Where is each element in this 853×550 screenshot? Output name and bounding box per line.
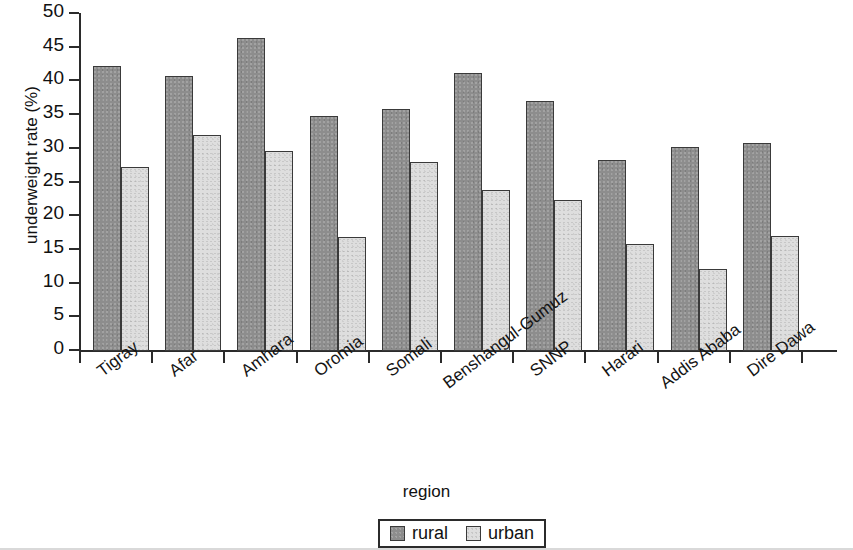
- y-axis-tick-label: 15: [43, 237, 64, 257]
- x-axis-title: region: [0, 482, 853, 502]
- x-axis-tick: [151, 352, 153, 363]
- y-axis-tick-label: 40: [43, 68, 64, 88]
- y-axis-tick-label: 25: [43, 170, 64, 190]
- x-axis-tick: [440, 352, 442, 363]
- legend-swatch-urban-icon: [466, 526, 481, 541]
- x-axis-tick: [368, 352, 370, 363]
- y-axis-tick: 30: [69, 147, 79, 149]
- legend-entry-rural: rural: [390, 523, 448, 543]
- bar-rural-somali: [382, 109, 410, 351]
- legend-entry-urban: urban: [466, 523, 534, 543]
- legend-label-rural: rural: [412, 523, 448, 543]
- x-axis-tick: [79, 352, 81, 363]
- y-axis-tick-label: 10: [43, 271, 64, 291]
- bar-urban-snnp: [554, 200, 582, 351]
- y-axis-tick: 50: [69, 12, 79, 14]
- bar-rural-addis-ababa: [671, 147, 699, 351]
- y-axis-tick: 35: [69, 113, 79, 115]
- y-axis-tick: 15: [69, 248, 79, 250]
- x-axis-label-afar: Afar: [166, 347, 202, 380]
- x-axis-tick: [729, 352, 731, 363]
- legend-label-urban: urban: [488, 523, 534, 543]
- y-axis-tick-label: 35: [43, 102, 64, 122]
- y-axis-tick: 20: [69, 214, 79, 216]
- bar-chart: underweight rate (%) 0510152025303540455…: [0, 0, 853, 550]
- y-axis-title: underweight rate (%): [22, 45, 42, 285]
- bar-urban-afar: [193, 135, 221, 351]
- plot-area: 05101520253035404550: [79, 14, 835, 351]
- bar-rural-amhara: [237, 38, 265, 351]
- x-axis-tick: [512, 352, 514, 363]
- bar-rural-oromia: [310, 116, 338, 351]
- bar-urban-amhara: [265, 151, 293, 351]
- bar-rural-harari: [598, 160, 626, 351]
- x-axis-tick: [296, 352, 298, 363]
- legend: rural urban: [378, 519, 546, 548]
- y-axis-tick: 45: [69, 46, 79, 48]
- y-axis-tick: 10: [69, 282, 79, 284]
- y-axis-tick-label: 50: [43, 1, 64, 21]
- bar-urban-tigray: [121, 167, 149, 351]
- y-axis-tick-label: 30: [43, 136, 64, 156]
- bar-urban-harari: [626, 244, 654, 351]
- y-axis-tick-label: 45: [43, 35, 64, 55]
- bar-rural-afar: [165, 76, 193, 351]
- bar-urban-somali: [410, 162, 438, 351]
- x-axis-tick: [801, 352, 803, 363]
- bar-rural-dire-dawa: [743, 143, 771, 351]
- y-axis-tick: 0: [69, 349, 79, 351]
- y-axis-tick-label: 0: [53, 338, 64, 358]
- y-axis-tick: 5: [69, 315, 79, 317]
- bar-rural-tigray: [93, 66, 121, 351]
- y-axis-tick-label: 5: [53, 304, 64, 324]
- bar-rural-benshangul-gumuz: [454, 73, 482, 351]
- x-axis-tick: [223, 352, 225, 363]
- y-axis-tick: 40: [69, 79, 79, 81]
- x-axis-tick: [584, 352, 586, 363]
- y-axis-tick: 25: [69, 181, 79, 183]
- x-axis-tick: [657, 352, 659, 363]
- legend-swatch-rural-icon: [390, 526, 405, 541]
- y-axis-tick-label: 20: [43, 203, 64, 223]
